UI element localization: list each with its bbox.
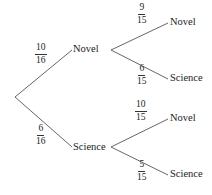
node-science-science: Science (170, 169, 203, 180)
prob-denominator: 15 (136, 112, 146, 123)
node-novel-science: Science (170, 73, 203, 84)
prob-root-novel: 10 16 (35, 43, 47, 65)
prob-numerator: 10 (35, 43, 47, 55)
prob-denominator: 16 (36, 55, 46, 66)
node-novel-novel: Novel (170, 17, 196, 28)
prob-numerator: 10 (135, 100, 147, 112)
edge-science-novel (111, 119, 168, 147)
prob-denominator: 15 (137, 76, 147, 87)
edge-novel-novel (111, 23, 168, 50)
prob-numerator: 6 (138, 64, 145, 76)
prob-numerator: 9 (138, 3, 145, 15)
tree-edges (0, 0, 212, 195)
prob-science-science: 5 15 (137, 160, 147, 182)
prob-science-novel: 10 15 (135, 100, 147, 122)
node-novel: Novel (73, 44, 99, 55)
node-science: Science (73, 142, 106, 153)
prob-denominator: 16 (36, 136, 46, 147)
prob-denominator: 15 (137, 15, 147, 26)
prob-novel-science: 6 15 (137, 64, 147, 86)
prob-numerator: 5 (138, 160, 145, 172)
node-science-novel: Novel (170, 113, 196, 124)
prob-novel-novel: 9 15 (137, 3, 147, 25)
prob-root-science: 6 16 (36, 124, 46, 146)
prob-denominator: 15 (137, 172, 147, 183)
prob-numerator: 6 (37, 124, 44, 136)
